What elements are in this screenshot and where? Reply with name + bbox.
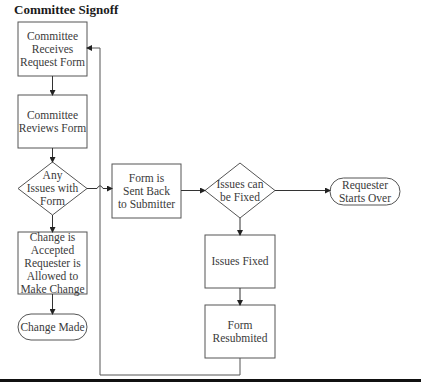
node-reviews: Committee Reviews Form xyxy=(18,95,87,148)
node-change-made: Change Made xyxy=(18,314,87,340)
node-sent-back: Form is Sent Back to Submitter xyxy=(112,164,181,218)
bottom-rule xyxy=(0,379,421,382)
node-starts-over: Requester Starts Over xyxy=(330,178,400,205)
node-can-fix: Issues can be Fixed xyxy=(205,163,275,218)
node-receives: Committee Receives Request Form xyxy=(18,22,87,76)
node-any-issues: Any Issues with Form xyxy=(18,162,87,215)
node-fixed: Issues Fixed xyxy=(205,235,275,288)
node-resubmitted: Form Resubmited xyxy=(205,305,275,358)
node-accepted: Change is Accepted Requester is Allowed … xyxy=(18,232,87,294)
